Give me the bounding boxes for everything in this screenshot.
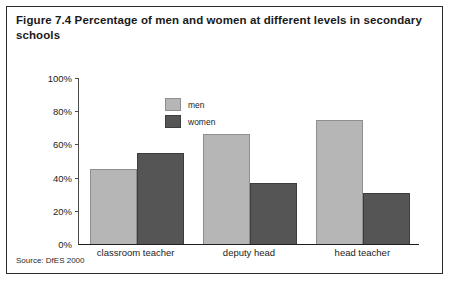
bar-men-deputy-head: [203, 134, 250, 244]
y-axis: 0%20%40%60%80%100%: [16, 78, 72, 244]
legend-item-men: men: [165, 98, 255, 111]
bar-women-head-teacher: [363, 193, 410, 244]
bar-women-classroom-teacher: [137, 153, 184, 244]
legend-swatch-men: [165, 98, 181, 111]
y-tick-mark: [75, 78, 79, 79]
source-note: Source: DfES 2000: [16, 256, 84, 265]
y-tick-label: 0%: [30, 239, 72, 250]
y-tick-label: 20%: [30, 205, 72, 216]
legend-label: women: [188, 117, 215, 127]
bar-men-head-teacher: [316, 120, 363, 245]
y-tick-mark: [75, 178, 79, 179]
y-tick-label: 40%: [30, 172, 72, 183]
y-tick-mark: [75, 211, 79, 212]
bar-women-deputy-head: [250, 183, 297, 244]
y-tick-mark: [75, 144, 79, 145]
x-tick-label: classroom teacher: [97, 247, 175, 258]
legend-label: men: [188, 100, 205, 110]
y-tick-label: 60%: [30, 139, 72, 150]
figure-frame: Figure 7.4 Percentage of men and women a…: [6, 6, 443, 274]
x-tick-label: head teacher: [335, 247, 390, 258]
bar-group: [316, 78, 410, 244]
legend-swatch-women: [165, 115, 181, 128]
plot-area: menwomen: [78, 78, 419, 245]
page-title: Figure 7.4 Percentage of men and women a…: [16, 13, 430, 42]
chart-legend: menwomen: [165, 98, 255, 132]
y-tick-label: 100%: [30, 73, 72, 84]
y-tick-label: 80%: [30, 106, 72, 117]
x-axis: classroom teacherdeputy headhead teacher: [79, 247, 419, 265]
bar-chart: 0%20%40%60%80%100% menwomen classroom te…: [16, 59, 434, 255]
bar-men-classroom-teacher: [90, 169, 137, 244]
legend-item-women: women: [165, 115, 255, 128]
x-tick-label: deputy head: [223, 247, 275, 258]
y-tick-mark: [75, 111, 79, 112]
